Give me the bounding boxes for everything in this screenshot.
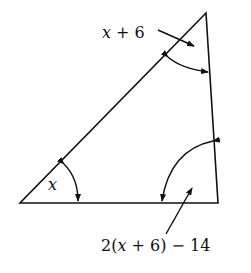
right-angle-arc <box>162 141 213 201</box>
left-angle-arc <box>64 164 78 201</box>
right-angle-expression: + 6) − 14 <box>126 236 210 255</box>
left-angle-label: x <box>48 177 57 193</box>
triangle-diagram: x + 6 x 2(x + 6) − 14 <box>0 0 251 273</box>
top-angle-variable: x <box>102 23 111 42</box>
right-angle-pointer-arrow <box>166 188 192 234</box>
top-angle-expression: + 6 <box>111 23 145 42</box>
top-angle-arc <box>168 57 208 72</box>
top-angle-label: x + 6 <box>102 25 145 41</box>
right-angle-prefix: 2( <box>101 236 117 255</box>
right-angle-label: 2(x + 6) − 14 <box>101 238 210 254</box>
